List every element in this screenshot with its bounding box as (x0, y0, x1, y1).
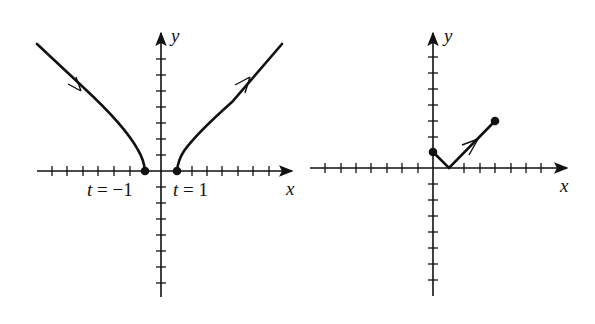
dot-start (429, 148, 438, 157)
t-rest: = −1 (92, 179, 132, 200)
annotation-t-minus-1: t = −1 (87, 180, 133, 199)
left-x-axis-label: x (286, 179, 294, 198)
left-branch-curve (37, 44, 145, 171)
right-panel (310, 33, 567, 296)
t-rest: = 1 (178, 179, 208, 200)
right-y-axis-label: y (444, 26, 452, 45)
left-panel (37, 33, 292, 297)
dot-end (491, 117, 500, 126)
figure-canvas (0, 0, 595, 324)
annotation-t-1: t = 1 (173, 180, 208, 199)
dot-t-1 (173, 167, 182, 176)
dot-t-minus-1 (141, 167, 150, 176)
left-y-axis-label: y (171, 26, 179, 45)
right-x-axis-label: x (560, 176, 568, 195)
right-branch-curve (177, 44, 282, 171)
